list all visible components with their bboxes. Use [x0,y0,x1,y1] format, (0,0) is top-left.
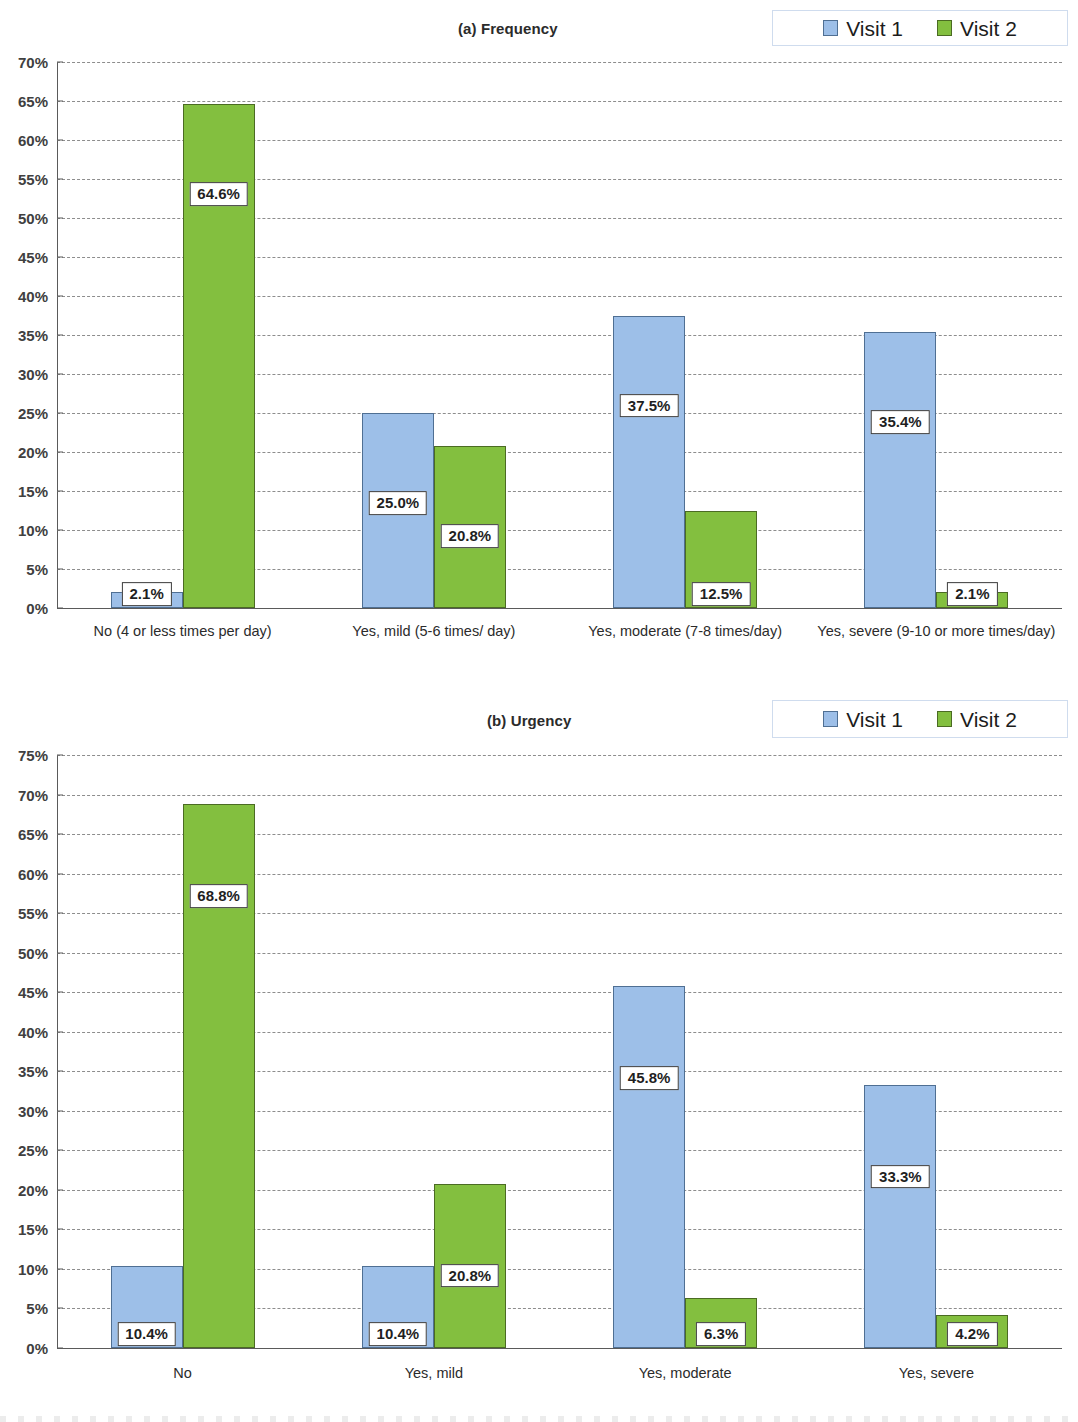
legend-frequency: Visit 1 Visit 2 [772,10,1068,46]
y-tick-mark [57,1268,63,1269]
bar-value-label: 33.3% [871,1165,930,1189]
y-axis-tick-label: 30% [18,1102,48,1119]
y-axis-tick-label: 40% [18,288,48,305]
chart-panel-urgency: (b) Urgency Visit 1 Visit 2 0%5%10%15%20… [0,690,1078,1422]
y-tick-mark [57,218,63,219]
bar-value-label: 2.1% [122,582,172,606]
y-tick-mark [57,179,63,180]
legend-urgency: Visit 1 Visit 2 [772,700,1068,738]
legend-label-visit1: Visit 1 [846,709,903,730]
bar-value-label: 45.8% [620,1066,679,1090]
y-tick-mark [57,1071,63,1072]
y-axis-tick-label: 35% [18,1063,48,1080]
y-tick-mark [57,335,63,336]
x-axis-category-label: Yes, severe [816,1364,1056,1383]
y-axis-tick-label: 20% [18,1181,48,1198]
legend-label-visit2: Visit 2 [960,18,1017,39]
bar-value-label: 12.5% [692,582,751,606]
y-axis-tick-label: 65% [18,826,48,843]
legend-swatch-visit2-icon [937,711,952,727]
y-tick-mark [57,140,63,141]
bar-visit-2-0 [183,104,255,608]
bar-value-label: 10.4% [369,1322,428,1346]
legend-item-visit2[interactable]: Visit 2 [937,709,1017,730]
y-tick-mark [57,296,63,297]
y-axis-line [57,755,58,1348]
y-axis-tick-label: 75% [18,747,48,764]
legend-item-visit1[interactable]: Visit 1 [823,18,903,39]
bar-value-label: 25.0% [369,491,428,515]
figure-page: (a) Frequency Visit 1 Visit 2 0%5%10%15%… [0,0,1078,1422]
y-axis-tick-label: 20% [18,444,48,461]
y-tick-mark [57,755,63,756]
y-tick-mark [57,1308,63,1309]
y-axis-tick-label: 35% [18,327,48,344]
y-tick-mark [57,101,63,102]
bar-value-label: 4.2% [947,1322,997,1346]
chart-title-frequency: (a) Frequency [458,20,558,37]
bar-value-label: 20.8% [441,1264,500,1288]
gridline [57,755,1062,756]
y-axis-tick-label: 10% [18,1260,48,1277]
bar-value-label: 35.4% [871,410,930,434]
bar-value-label: 37.5% [620,394,679,418]
legend-item-visit2[interactable]: Visit 2 [937,18,1017,39]
x-axis-category-label: Yes, moderate [565,1364,805,1383]
legend-swatch-visit2-icon [937,20,952,36]
y-axis-tick-label: 5% [26,1300,48,1317]
gridline [57,101,1062,102]
y-tick-mark [57,1150,63,1151]
y-axis-tick-label: 25% [18,1142,48,1159]
y-tick-mark [57,62,63,63]
y-tick-mark [57,608,63,609]
y-axis-tick-label: 0% [26,600,48,617]
y-tick-mark [57,1348,63,1349]
chart-title-urgency: (b) Urgency [487,712,571,729]
y-tick-mark [57,452,63,453]
y-tick-mark [57,569,63,570]
legend-item-visit1[interactable]: Visit 1 [823,709,903,730]
y-axis-tick-label: 50% [18,944,48,961]
y-axis-tick-label: 5% [26,561,48,578]
y-axis-tick-label: 55% [18,905,48,922]
y-axis-tick-label: 10% [18,522,48,539]
bar-value-label: 20.8% [441,524,500,548]
chart-panel-frequency: (a) Frequency Visit 1 Visit 2 0%5%10%15%… [0,0,1078,690]
plot-area-frequency: 0%5%10%15%20%25%30%35%40%45%50%55%60%65%… [57,62,1062,608]
y-tick-mark [57,913,63,914]
y-axis-tick-label: 50% [18,210,48,227]
x-axis-category-label: No (4 or less times per day) [63,622,303,641]
y-axis-tick-label: 70% [18,54,48,71]
y-tick-mark [57,374,63,375]
y-axis-tick-label: 45% [18,984,48,1001]
plot-area-urgency: 0%5%10%15%20%25%30%35%40%45%50%55%60%65%… [57,755,1062,1348]
legend-label-visit2: Visit 2 [960,709,1017,730]
x-axis-category-label: Yes, moderate (7-8 times/day) [565,622,805,641]
bar-visit-1-2 [613,986,685,1348]
y-axis-tick-label: 60% [18,132,48,149]
y-axis-tick-label: 55% [18,171,48,188]
y-axis-tick-label: 0% [26,1340,48,1357]
bar-value-label: 10.4% [117,1322,176,1346]
y-tick-mark [57,834,63,835]
y-tick-mark [57,952,63,953]
y-axis-tick-label: 65% [18,93,48,110]
y-tick-mark [57,491,63,492]
y-tick-mark [57,257,63,258]
x-axis-category-label: Yes, mild [314,1364,554,1383]
y-tick-mark [57,1189,63,1190]
y-tick-mark [57,794,63,795]
y-tick-mark [57,1110,63,1111]
gridline [57,1348,1062,1349]
y-tick-mark [57,413,63,414]
y-axis-tick-label: 15% [18,483,48,500]
x-axis-category-label: No [63,1364,303,1383]
scan-artifact-bottom [0,1416,1078,1422]
y-axis-tick-label: 15% [18,1221,48,1238]
gridline [57,608,1062,609]
legend-label-visit1: Visit 1 [846,18,903,39]
x-axis-category-label: Yes, mild (5-6 times/ day) [314,622,554,641]
y-tick-mark [57,873,63,874]
legend-swatch-visit1-icon [823,711,838,727]
legend-swatch-visit1-icon [823,20,838,36]
